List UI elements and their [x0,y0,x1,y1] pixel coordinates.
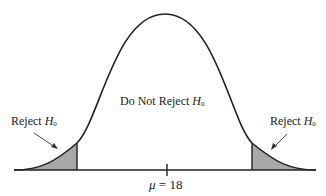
do-not-reject-label: Do Not Reject H0 [120,94,205,110]
left-rejection-region [14,143,77,170]
bell-curve [14,14,316,170]
left-arrow [34,133,55,147]
right-arrow-head [271,143,277,150]
mean-label: μ = 18 [149,178,182,192]
right-rejection-region [252,143,316,170]
left-reject-label: Reject H0 [11,114,57,130]
right-reject-label: Reject H0 [270,114,316,130]
right-arrow [274,134,287,147]
left-arrow-head [51,143,58,149]
